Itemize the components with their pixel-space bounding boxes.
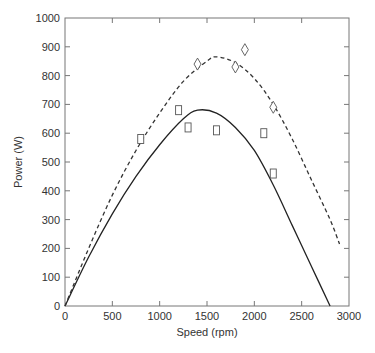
diamond-marker: [194, 58, 201, 70]
y-axis-label: Power (W): [12, 136, 24, 188]
diamond-marker: [241, 44, 248, 56]
y-tick-label: 1000: [36, 12, 60, 24]
x-tick-label: 1500: [195, 310, 219, 322]
y-tick-label: 600: [42, 127, 60, 139]
x-tick-label: 2500: [289, 310, 313, 322]
fit-solid-line: [65, 110, 330, 306]
square-marker: [261, 129, 267, 138]
fit-dashed-line: [65, 57, 340, 306]
square-marker: [185, 123, 191, 132]
y-tick-label: 200: [42, 242, 60, 254]
square-marker: [176, 106, 182, 115]
series-layer: [65, 44, 340, 306]
x-tick-label: 3000: [337, 310, 361, 322]
diamond-marker: [270, 101, 277, 113]
y-tick-label: 100: [42, 271, 60, 283]
plot-frame: [65, 18, 349, 306]
y-tick-label: 700: [42, 98, 60, 110]
y-axis: 01002003004005006007008009001000: [36, 12, 349, 312]
y-tick-label: 900: [42, 41, 60, 53]
y-tick-label: 400: [42, 185, 60, 197]
y-tick-label: 800: [42, 70, 60, 82]
x-tick-label: 2000: [242, 310, 266, 322]
y-tick-label: 300: [42, 214, 60, 226]
power-speed-chart: 050010001500200025003000 010020030040050…: [0, 0, 375, 353]
x-tick-label: 0: [62, 310, 68, 322]
x-tick-label: 1000: [147, 310, 171, 322]
y-tick-label: 0: [54, 300, 60, 312]
square-marker: [213, 126, 219, 135]
x-axis-label: Speed (rpm): [176, 326, 237, 338]
diamond-marker: [232, 61, 239, 73]
square-marker: [270, 169, 276, 178]
x-tick-label: 500: [103, 310, 121, 322]
y-tick-label: 500: [42, 156, 60, 168]
square-marker: [138, 134, 144, 143]
